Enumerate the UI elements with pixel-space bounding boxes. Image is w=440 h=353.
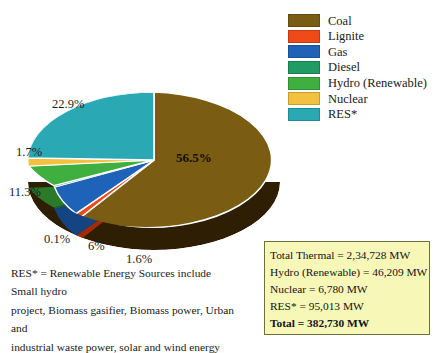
legend-swatch-lignite-icon — [288, 30, 320, 43]
legend-label-gas: Gas — [328, 46, 347, 59]
pie-label-gas: 6% — [88, 239, 105, 254]
legend-label-hydro: Hydro (Renewable) — [328, 77, 427, 90]
footnote-line-1: RES* = Renewable Energy Sources include … — [11, 264, 239, 301]
legend-swatch-res-icon — [288, 108, 320, 121]
summary-hydro: Hydro (Renewable) = 46,209 MW — [270, 264, 424, 281]
capacity-summary-box: Total Thermal = 2,34,728 MW Hydro (Renew… — [264, 241, 430, 335]
legend-swatch-gas-icon — [288, 45, 320, 58]
legend-swatch-nuclear-icon — [288, 92, 320, 105]
chart-legend: Coal Lignite Gas Diesel Hydro (Renewable… — [288, 13, 436, 122]
legend-label-lignite: Lignite — [328, 30, 364, 43]
legend-swatch-diesel-icon — [288, 61, 320, 74]
legend-item-res[interactable]: RES* — [288, 107, 436, 123]
summary-total: Total = 382,730 MW — [270, 315, 424, 332]
pie-slice-res[interactable] — [28, 92, 154, 160]
legend-item-lignite[interactable]: Lignite — [288, 29, 436, 45]
legend-swatch-coal-icon — [288, 14, 320, 27]
legend-item-gas[interactable]: Gas — [288, 44, 436, 60]
pie-top-layer — [28, 92, 280, 228]
legend-item-diesel[interactable]: Diesel — [288, 60, 436, 76]
pie-label-diesel: 0.1% — [44, 232, 70, 247]
summary-nuclear: Nuclear = 6,780 MW — [270, 281, 424, 298]
pie-label-res: 22.9% — [52, 97, 84, 112]
pie-label-hydro: 11.3% — [9, 185, 41, 200]
legend-label-diesel: Diesel — [328, 61, 360, 74]
summary-total-thermal: Total Thermal = 2,34,728 MW — [270, 247, 424, 264]
res-footnote: RES* = Renewable Energy Sources include … — [11, 264, 239, 353]
footnote-line-2: project, Biomass gasifier, Biomass power… — [11, 301, 239, 338]
pie-label-nuclear: 1.7% — [16, 145, 42, 160]
summary-res: RES* = 95,013 MW — [270, 298, 424, 315]
legend-label-nuclear: Nuclear — [328, 93, 368, 106]
pie-label-coal: 56.5% — [176, 150, 212, 166]
legend-swatch-hydro-icon — [288, 77, 320, 90]
legend-item-nuclear[interactable]: Nuclear — [288, 91, 436, 107]
legend-label-coal: Coal — [328, 15, 352, 28]
pie-chart: 56.5% — [28, 92, 280, 252]
footnote-line-3: industrial waste power, solar and wind e… — [11, 338, 239, 353]
legend-label-res: RES* — [328, 108, 357, 121]
legend-item-hydro[interactable]: Hydro (Renewable) — [288, 75, 436, 91]
legend-item-coal[interactable]: Coal — [288, 13, 436, 29]
